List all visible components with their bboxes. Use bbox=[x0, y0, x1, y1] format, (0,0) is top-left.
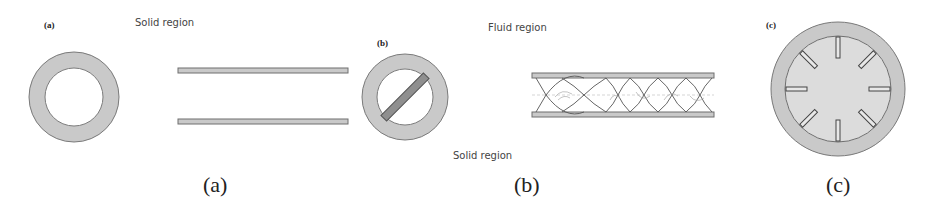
figure-canvas: (a) Solid region (a) (b) Fluid region So… bbox=[0, 0, 933, 210]
panel-c-tag: (c) bbox=[766, 20, 776, 30]
panel-b-solid-region-label: Solid region bbox=[453, 150, 512, 161]
panel-b-longitudinal-view bbox=[532, 73, 714, 117]
panel-a-tag: (a) bbox=[44, 20, 55, 30]
panel-c-cross-section bbox=[771, 22, 905, 156]
panel-b-cross-section bbox=[362, 54, 448, 140]
panel-a-caption: (a) bbox=[203, 172, 227, 198]
panel-a-region-label: Solid region bbox=[135, 17, 194, 28]
panel-b-tag: (b) bbox=[377, 38, 388, 48]
figure-graphics bbox=[0, 0, 933, 210]
panel-c-caption: (c) bbox=[826, 172, 850, 198]
panel-b-caption: (b) bbox=[514, 172, 540, 198]
panel-b-fluid-region-label: Fluid region bbox=[488, 22, 547, 33]
panel-a-longitudinal-walls bbox=[178, 68, 348, 124]
panel-a-cross-section bbox=[29, 52, 119, 142]
